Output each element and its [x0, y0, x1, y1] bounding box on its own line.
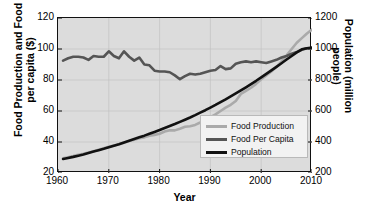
y-axis-left-tick-label: 120 — [14, 11, 54, 22]
x-axis-tick-label: 1980 — [137, 175, 181, 186]
chart-legend[interactable]: Food ProductionFood Per CapitaPopulation — [200, 115, 308, 158]
legend-item[interactable]: Food Production — [206, 120, 306, 133]
y-axis-right-tick-label: 400 — [315, 135, 355, 146]
legend-color-swatch — [206, 125, 227, 128]
y-axis-left-tick-label: 100 — [14, 42, 54, 53]
x-axis-title: Year — [57, 191, 312, 203]
y-axis-right-tick-label: 600 — [315, 104, 355, 115]
legend-color-swatch — [206, 138, 227, 141]
legend-label: Food Production — [231, 120, 294, 133]
legend-color-swatch — [206, 151, 227, 154]
x-axis-tick-label: 2000 — [238, 175, 282, 186]
x-axis-tick-label: 1990 — [187, 175, 231, 186]
y-axis-right-tick-label: 1000 — [315, 42, 355, 53]
y-axis-left-tick-label: 40 — [14, 135, 54, 146]
y-axis-left-title: Food Production and Food per capita ($) — [12, 2, 36, 138]
legend-item[interactable]: Food Per Capita — [206, 133, 306, 146]
chart-figure: Food Production and Food per capita ($) … — [0, 0, 370, 211]
legend-item[interactable]: Population — [206, 146, 306, 159]
y-axis-left-tick-label: 60 — [14, 104, 54, 115]
series-line — [63, 48, 312, 79]
y-axis-right-tick-label: 1200 — [315, 11, 355, 22]
x-axis-tick-label: 1960 — [35, 175, 79, 186]
x-axis-tick-label: 2010 — [289, 175, 333, 186]
x-axis-tick-label: 1970 — [86, 175, 130, 186]
y-axis-right-tick-label: 800 — [315, 73, 355, 84]
legend-label: Population — [231, 146, 272, 159]
y-axis-left-tick-label: 80 — [14, 73, 54, 84]
legend-label: Food Per Capita — [231, 133, 294, 146]
